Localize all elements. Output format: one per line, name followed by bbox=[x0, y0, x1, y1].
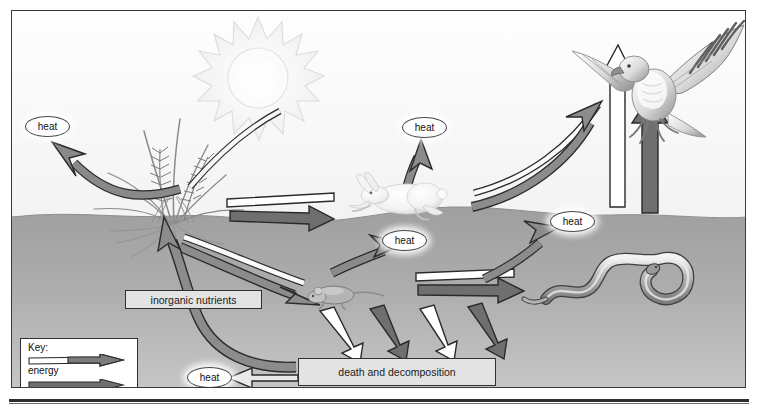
heat-text: heat bbox=[563, 216, 582, 227]
nutrients-arrow-icon bbox=[28, 379, 132, 388]
death-and-decomposition-label: death and decomposition bbox=[338, 366, 455, 378]
legend-item-energy bbox=[28, 354, 137, 365]
inorganic-nutrients-label: inorganic nutrients bbox=[151, 294, 237, 306]
energy-arrow-icon bbox=[28, 354, 132, 367]
hawk-consumer bbox=[12, 11, 746, 388]
inorganic-nutrients-box: inorganic nutrients bbox=[125, 290, 262, 309]
heat-text: heat bbox=[200, 372, 219, 383]
heat-text: heat bbox=[38, 121, 57, 132]
heat-label-snake: heat bbox=[550, 211, 595, 232]
death-and-decomposition-box: death and decomposition bbox=[298, 358, 496, 386]
bottom-rule-thin bbox=[9, 403, 749, 404]
legend-item-nutrients bbox=[28, 379, 137, 388]
legend-title: Key: bbox=[28, 342, 137, 353]
heat-label-plant: heat bbox=[25, 116, 70, 137]
legend-key: Key: energy nutrients bbox=[20, 338, 138, 388]
diagram-frame: inorganic nutrients death and decomposit… bbox=[11, 10, 746, 388]
heat-text: heat bbox=[395, 235, 414, 246]
bottom-rule bbox=[9, 399, 749, 402]
heat-label-decomposition: heat bbox=[187, 367, 232, 388]
figure-root: inorganic nutrients death and decomposit… bbox=[0, 0, 758, 412]
heat-label-mouse: heat bbox=[382, 230, 427, 251]
heat-text: heat bbox=[415, 122, 434, 133]
heat-label-rabbit: heat bbox=[402, 117, 447, 138]
